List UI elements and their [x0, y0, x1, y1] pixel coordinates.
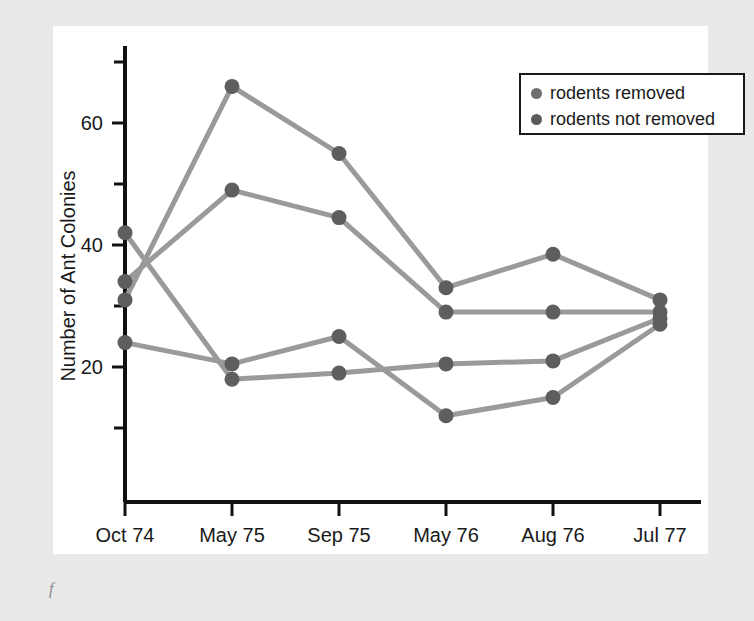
legend-marker-icon [531, 114, 542, 125]
data-point [332, 366, 347, 381]
legend-label: rodents removed [550, 83, 685, 104]
data-point [439, 305, 454, 320]
data-point [332, 329, 347, 344]
x-tick-label: Oct 74 [96, 524, 155, 546]
legend-item-rodents-not-removed: rodents not removed [531, 106, 735, 132]
data-point [546, 353, 561, 368]
data-point [653, 317, 668, 332]
data-point [439, 356, 454, 371]
data-point [546, 305, 561, 320]
y-tick-label: 20 [81, 356, 103, 378]
y-tick-label: 60 [81, 112, 103, 134]
data-point [225, 79, 240, 94]
x-tick-label: May 75 [199, 524, 265, 546]
data-point [546, 390, 561, 405]
figure-page: 204060Oct 74May 75Sep 75May 76Aug 76Jul … [0, 0, 754, 621]
x-tick-label: May 76 [413, 524, 479, 546]
y-tick-label: 40 [81, 234, 103, 256]
data-point [546, 247, 561, 262]
data-point [118, 292, 133, 307]
x-tick-label: Jul 77 [633, 524, 686, 546]
data-point [225, 356, 240, 371]
data-point [439, 408, 454, 423]
figure-mark: f [49, 580, 53, 598]
data-point [118, 335, 133, 350]
chart-card: 204060Oct 74May 75Sep 75May 76Aug 76Jul … [53, 26, 708, 554]
data-point [439, 280, 454, 295]
data-point [225, 183, 240, 198]
y-axis-title: Number of Ant Colonies [57, 170, 79, 381]
legend-marker-icon [531, 88, 542, 99]
data-point [332, 210, 347, 225]
x-tick-label: Aug 76 [521, 524, 584, 546]
legend-label: rodents not removed [550, 109, 715, 130]
x-tick-label: Sep 75 [307, 524, 370, 546]
data-point [332, 146, 347, 161]
data-point [118, 225, 133, 240]
chart-legend: rodents removed rodents not removed [519, 73, 745, 135]
legend-item-rodents-removed: rodents removed [531, 80, 735, 106]
series-line-1 [125, 190, 660, 312]
data-point [118, 274, 133, 289]
data-point [225, 372, 240, 387]
axis-labels: 204060Oct 74May 75Sep 75May 76Aug 76Jul … [57, 112, 687, 554]
